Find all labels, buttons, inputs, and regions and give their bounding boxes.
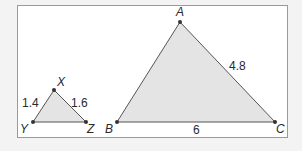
vertex-y-dot bbox=[31, 120, 35, 124]
side-xy-label: 1.4 bbox=[22, 96, 39, 110]
vertex-b-label: B bbox=[105, 122, 113, 136]
side-ac-label: 4.8 bbox=[229, 59, 246, 73]
vertex-z-label: Z bbox=[86, 122, 95, 136]
side-xz-label: 1.6 bbox=[71, 96, 88, 110]
diagram-canvas: X Y Z 1.4 1.6 A B C 4.8 6 bbox=[0, 0, 302, 151]
vertex-b-dot bbox=[115, 120, 119, 124]
vertex-c-label: C bbox=[276, 122, 285, 136]
vertex-a-label: A bbox=[175, 5, 184, 19]
vertex-x-dot bbox=[52, 88, 56, 92]
vertex-y-label: Y bbox=[20, 122, 29, 136]
vertex-a-dot bbox=[178, 20, 182, 24]
side-bc-label: 6 bbox=[193, 123, 200, 137]
vertex-x-label: X bbox=[56, 75, 66, 89]
